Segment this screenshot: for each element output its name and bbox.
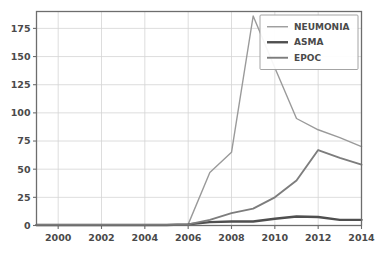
- xtick-label: 2010: [262, 232, 289, 243]
- xtick-labels-layer: 20002002200420062008201020122014: [45, 232, 375, 243]
- ytick-label: 25: [17, 192, 30, 203]
- xtick-label: 2002: [88, 232, 114, 243]
- ytick-label: 50: [17, 164, 31, 175]
- ytick-label: 125: [11, 79, 31, 90]
- legend: NEUMONIAASMAEPOC: [260, 15, 358, 70]
- xtick-label: 2012: [305, 232, 331, 243]
- series-line-epoc: [37, 150, 362, 225]
- xtick-label: 2014: [348, 232, 375, 243]
- ytick-label: 75: [17, 135, 30, 146]
- line-chart: 20002002200420062008201020122014 0255075…: [0, 0, 375, 255]
- legend-label-asma: ASMA: [294, 37, 323, 47]
- ytick-label: 150: [11, 51, 31, 62]
- series-line-asma: [37, 216, 362, 224]
- legend-label-epoc: EPOC: [294, 53, 321, 63]
- ytick-label: 0: [24, 220, 31, 231]
- ytick-label: 175: [11, 23, 31, 34]
- xtick-label: 2006: [175, 232, 202, 243]
- xtick-label: 2000: [45, 232, 72, 243]
- xtick-label: 2008: [218, 232, 245, 243]
- xtick-label: 2004: [132, 232, 159, 243]
- ytick-label: 100: [11, 107, 31, 118]
- legend-label-neumonia: NEUMONIA: [294, 22, 349, 32]
- ytick-labels-layer: 0255075100125150175: [11, 23, 31, 231]
- chart-canvas: 20002002200420062008201020122014 0255075…: [0, 0, 375, 255]
